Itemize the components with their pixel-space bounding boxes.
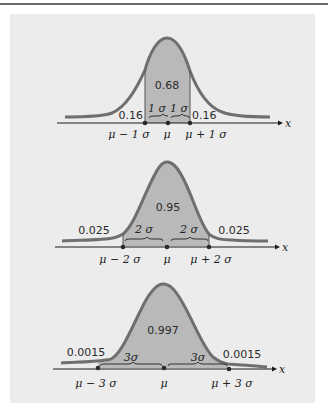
right-interval-label: 1 σ [170,102,188,115]
tick-label-mean: μ [163,253,170,266]
right-tail-label: 0.16 [192,109,217,122]
tick-point-right [207,245,212,250]
tick-point-mean [162,366,167,371]
axis-label: x [279,363,286,376]
axis-label: x [282,241,289,254]
tick-label-right: μ + 2 σ [190,253,232,266]
left-tail-label: 0.0015 [67,346,106,359]
tick-point-right [227,367,232,372]
center-area-label: 0.68 [155,79,180,92]
chart-1-sigma: x 0.68 0.16 0.16 1 σ 1 σ μ − 1 σ μ μ + 1… [57,38,292,141]
center-area-label: 0.95 [156,201,181,214]
right-tail-label: 0.0015 [223,348,262,361]
tick-label-left: μ − 2 σ [99,253,141,266]
tick-label-right: μ + 3 σ [211,377,253,390]
normal-distribution-figure: x 0.68 0.16 0.16 1 σ 1 σ μ − 1 σ μ μ + 1… [0,0,328,408]
axis-label: x [285,117,292,130]
tick-point-mean [166,121,171,126]
tick-label-mean: μ [163,128,170,141]
tick-point-left [121,245,126,250]
chart-2-sigma: x 0.95 0.025 0.025 2 σ 2 σ μ − 2 σ μ μ +… [55,162,289,266]
right-tail-label: 0.025 [218,224,250,237]
tick-label-left: μ − 1 σ [108,128,150,141]
axis-arrow-icon [278,121,283,126]
axis-arrow-icon [272,367,277,372]
left-tail-label: 0.025 [78,224,110,237]
tick-label-mean: μ [160,377,167,390]
left-interval-label: 1 σ [148,102,166,115]
right-interval-label: 2 σ [179,223,198,236]
axis-arrow-icon [275,245,280,250]
chart-3-sigma: x 0.997 0.0015 0.0015 3σ 3σ μ − 3 σ μ μ … [53,284,286,390]
tick-point-mean [165,245,170,250]
left-tail-label: 0.16 [119,109,144,122]
right-interval-label: 3σ [191,351,206,364]
left-interval-label: 3σ [124,351,139,364]
center-area-label: 0.997 [147,324,179,337]
tick-label-right: μ + 1 σ [185,128,227,141]
tick-point-left [96,366,101,371]
left-interval-label: 2 σ [134,223,153,236]
tick-point-left [143,121,148,126]
tick-label-left: μ − 3 σ [75,377,117,390]
